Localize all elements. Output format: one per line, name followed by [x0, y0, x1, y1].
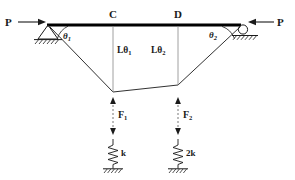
load-arrow-right — [248, 19, 274, 25]
load-label-left: P — [5, 16, 12, 28]
double-arrow-vertical-icon — [110, 97, 116, 104]
angle-label-theta2: θ2 — [209, 30, 218, 41]
force-arrow-f2 — [175, 97, 181, 135]
spring-label-k: k — [121, 148, 126, 158]
dimension-label-l-theta-2: Lθ2 — [151, 45, 166, 56]
arrow-right-icon — [38, 19, 46, 25]
dimension-label-l-theta-1: Lθ1 — [117, 45, 132, 56]
ground-hatch-icon — [35, 40, 59, 44]
double-arrow-vertical-icon — [175, 97, 181, 104]
spring-k — [103, 139, 123, 173]
spring-icon — [108, 145, 118, 165]
angle-arc-theta2 — [222, 26, 235, 38]
angle-label-theta1: θ1 — [63, 31, 71, 42]
spring-label-2k: 2k — [186, 148, 196, 158]
node-label-d: D — [174, 8, 182, 20]
node-label-c: C — [109, 8, 117, 20]
arrow-left-icon — [248, 19, 256, 25]
member-left-diagonal — [50, 27, 113, 92]
mechanics-diagram: P P θ1 — [0, 0, 295, 180]
load-arrow-left — [18, 19, 46, 25]
spring-2k — [168, 139, 188, 173]
force-arrow-f1 — [110, 97, 116, 135]
spring-icon — [173, 145, 183, 165]
member-bottom-chord — [113, 85, 178, 92]
force-label-f2: F2 — [183, 109, 192, 121]
ground-hatch-icon — [169, 169, 187, 173]
ground-hatch-icon — [233, 36, 257, 40]
force-label-f1: F1 — [118, 109, 127, 121]
ground-hatch-icon — [104, 169, 122, 173]
load-label-right: P — [277, 16, 284, 28]
